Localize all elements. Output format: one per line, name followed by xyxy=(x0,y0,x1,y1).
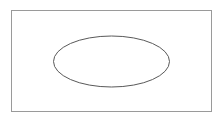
geometric-figure xyxy=(0,0,224,121)
diagram-canvas xyxy=(0,0,224,121)
inner-ellipse-shape xyxy=(54,36,170,87)
outer-rectangle-shape xyxy=(12,11,212,112)
